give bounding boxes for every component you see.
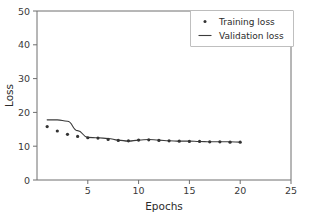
x-tick-label-10: 10 bbox=[133, 185, 145, 196]
training-loss-point bbox=[46, 125, 49, 128]
training-loss-point bbox=[137, 139, 140, 142]
training-loss-point bbox=[178, 140, 181, 143]
x-tick-label-15: 15 bbox=[183, 185, 195, 196]
training-loss-point bbox=[66, 133, 69, 136]
y-tick-label-0: 0 bbox=[24, 175, 30, 186]
training-loss-point bbox=[239, 141, 242, 144]
training-loss-point bbox=[86, 136, 89, 139]
training-loss-point bbox=[117, 139, 120, 142]
training-loss-point bbox=[107, 138, 110, 141]
y-tick-label-40: 40 bbox=[18, 39, 30, 50]
x-tick-label-5: 5 bbox=[85, 185, 91, 196]
loss-curve-chart: 0 10 20 30 40 50 Loss 5 10 15 20 25 Epoc… bbox=[0, 0, 316, 218]
y-tick-label-20: 20 bbox=[18, 107, 30, 118]
training-loss-point bbox=[228, 141, 231, 144]
y-tick-label-10: 10 bbox=[18, 141, 30, 152]
training-loss-point bbox=[188, 140, 191, 143]
y-axis-title: Loss bbox=[3, 84, 15, 107]
legend-label-validation: Validation loss bbox=[219, 31, 284, 41]
training-loss-point bbox=[218, 140, 221, 143]
legend-label-training: Training loss bbox=[218, 17, 275, 27]
training-loss-point bbox=[96, 136, 99, 139]
training-loss-point bbox=[127, 139, 130, 142]
training-loss-point bbox=[56, 129, 59, 132]
legend-marker-training-dot-icon bbox=[204, 20, 207, 23]
x-tick-label-20: 20 bbox=[234, 185, 246, 196]
x-tick-label-25: 25 bbox=[285, 185, 297, 196]
x-axis-title: Epochs bbox=[145, 200, 183, 212]
training-loss-point bbox=[157, 139, 160, 142]
training-loss-point bbox=[208, 140, 211, 143]
training-loss-point bbox=[76, 135, 79, 138]
training-loss-point bbox=[167, 139, 170, 142]
training-loss-point bbox=[198, 140, 201, 143]
y-tick-label-30: 30 bbox=[18, 73, 30, 84]
chart-legend: Training loss Validation loss bbox=[191, 11, 294, 47]
training-loss-point bbox=[147, 138, 150, 141]
y-tick-label-50: 50 bbox=[18, 6, 30, 17]
chart-figure: 0 10 20 30 40 50 Loss 5 10 15 20 25 Epoc… bbox=[0, 0, 316, 218]
